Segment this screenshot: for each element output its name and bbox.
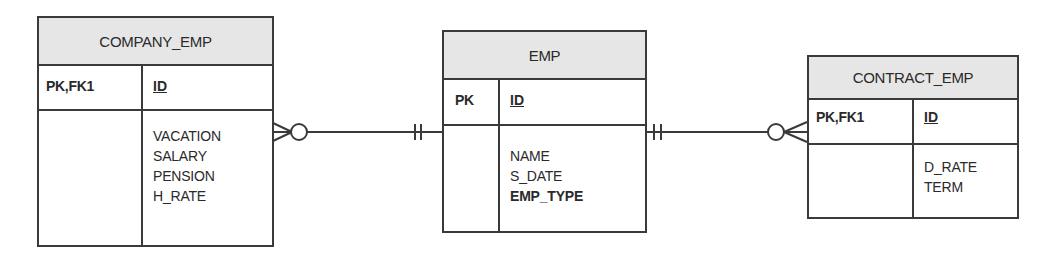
attribute: PENSION	[153, 166, 221, 186]
attribute: NAME	[510, 146, 583, 166]
column-divider	[498, 78, 500, 231]
entity-title: EMP	[444, 32, 645, 80]
zero-optional-circle-icon	[291, 124, 307, 140]
key-label: PK	[455, 92, 474, 108]
attribute-discriminator: EMP_TYPE	[510, 186, 583, 206]
entity-contract-emp[interactable]: CONTRACT_EMP PK,FK1 ID D_RATE TERM	[807, 55, 1019, 219]
entity-company-emp[interactable]: COMPANY_EMP PK,FK1 ID VACATION SALARY PE…	[37, 16, 274, 247]
key-label: PK,FK1	[816, 109, 864, 125]
zero-optional-circle-icon	[768, 124, 784, 140]
attribute: TERM	[924, 177, 977, 197]
pk-attribute: ID	[153, 78, 167, 94]
attribute: D_RATE	[924, 157, 977, 177]
pk-attribute: ID	[510, 92, 524, 108]
entity-title: COMPANY_EMP	[39, 18, 272, 66]
entity-emp[interactable]: EMP PK ID NAME S_DATE EMP_TYPE	[442, 30, 647, 233]
attribute: H_RATE	[153, 186, 221, 206]
attribute: SALARY	[153, 146, 221, 166]
entity-title: CONTRACT_EMP	[809, 57, 1017, 100]
column-divider	[141, 64, 143, 245]
attribute-list: D_RATE TERM	[924, 157, 977, 197]
pk-attribute: ID	[924, 109, 938, 125]
key-label: PK,FK1	[46, 78, 94, 94]
attribute: VACATION	[153, 126, 221, 146]
attribute-list: VACATION SALARY PENSION H_RATE	[153, 126, 221, 206]
column-divider	[912, 98, 914, 217]
attribute: S_DATE	[510, 166, 583, 186]
pk-row	[444, 78, 645, 126]
attribute-list: NAME S_DATE EMP_TYPE	[510, 146, 583, 206]
